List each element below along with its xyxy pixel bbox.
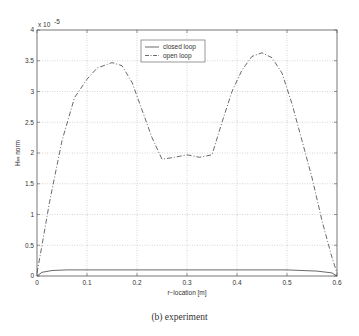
x-tick-label: 0 [35, 279, 39, 286]
legend-label-open-loop: open loop [163, 52, 192, 60]
line-chart: 00.10.20.30.40.50.600.511.522.533.54x 10… [0, 0, 359, 310]
figure-caption: (b) experiment [0, 312, 359, 322]
x-tick-label: 0.5 [282, 279, 291, 286]
y-tick-label: 2.5 [25, 119, 34, 126]
y-multiplier-exponent: -5 [54, 18, 60, 25]
y-tick-label: 0.5 [25, 242, 34, 249]
y-tick-label: 3.5 [25, 57, 34, 64]
x-tick-label: 0.2 [132, 279, 141, 286]
y-tick-label: 3 [30, 88, 34, 95]
x-tick-label: 0.6 [332, 279, 341, 286]
x-tick-label: 0.4 [232, 279, 241, 286]
y-axis-label: H∞ norm [14, 140, 21, 166]
y-tick-label: 1.5 [25, 180, 34, 187]
y-tick-label: 1 [30, 211, 34, 218]
y-tick-label: 4 [30, 26, 34, 33]
legend-label-closed-loop: closed loop [163, 43, 196, 51]
y-tick-label: 0 [30, 272, 34, 279]
x-tick-label: 0.3 [182, 279, 191, 286]
y-tick-label: 2 [30, 149, 34, 156]
y-multiplier: x 10 [38, 21, 51, 28]
x-tick-label: 0.1 [82, 279, 91, 286]
x-axis-label: r−location [m] [167, 289, 206, 297]
